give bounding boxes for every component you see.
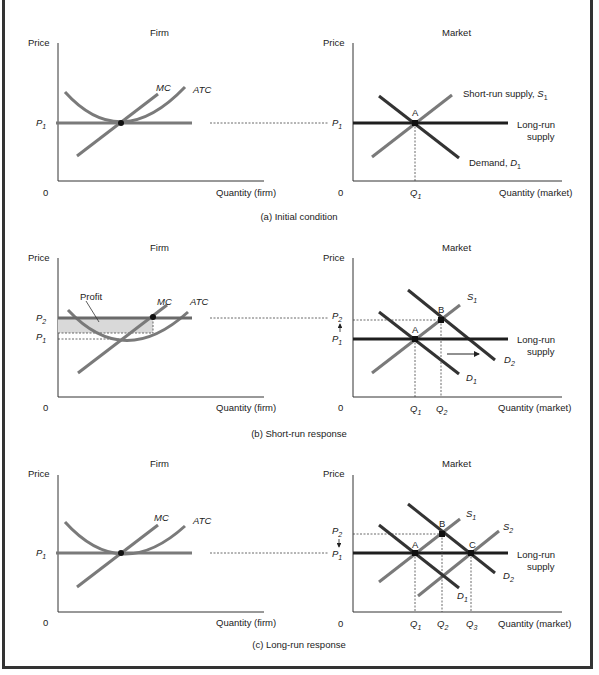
- panel-c-firm-chart: Firm Price 0 Quantity (firm) P1 MC ATC: [28, 458, 276, 628]
- demand-curve-d2: [408, 504, 495, 573]
- price-p1-label: P1: [36, 117, 46, 130]
- long-run-supply-label-1: Long-run: [517, 549, 555, 560]
- origin-label: 0: [338, 402, 343, 413]
- point-b-label: B: [438, 304, 444, 315]
- firm-title: Firm: [150, 458, 169, 469]
- origin-label: 0: [338, 187, 343, 198]
- d1-label: D1: [466, 372, 477, 385]
- price-p1-label: P1: [332, 117, 342, 130]
- panel-c: Firm Price 0 Quantity (firm) P1 MC ATC M…: [28, 458, 571, 650]
- point-b-label: B: [439, 518, 445, 529]
- profit-max-point: [150, 314, 156, 320]
- mc-curve: [77, 525, 158, 587]
- y-axis-label: Price: [28, 468, 50, 479]
- point-c: [468, 550, 474, 556]
- x-axis-label: Quantity (market): [498, 618, 571, 629]
- market-title: Market: [442, 458, 471, 469]
- y-axis-label: Price: [28, 37, 50, 48]
- q1-label: Q1: [410, 187, 421, 200]
- y-axis-label: Price: [323, 37, 345, 48]
- equilibrium-point: [118, 120, 124, 126]
- mc-curve: [77, 94, 158, 156]
- market-title: Market: [442, 27, 471, 38]
- point-c-label: C: [469, 539, 476, 550]
- point-a-label: A: [412, 107, 419, 118]
- point-a: [412, 120, 418, 126]
- economics-diagram: Firm Price 0 Quantity (firm) P1 MC ATC M…: [0, 0, 599, 675]
- q2-label: Q2: [436, 403, 447, 416]
- d2-label: D2: [503, 570, 514, 583]
- origin-label: 0: [43, 617, 48, 628]
- origin-label: 0: [43, 402, 48, 413]
- long-run-supply-label-2: supply: [527, 561, 555, 572]
- panel-b: Firm Price 0 Quantity (firm) P2 P1 Profi…: [28, 242, 571, 439]
- point-b: [439, 531, 445, 537]
- y-axis-label: Price: [323, 468, 345, 479]
- long-run-supply-label-2: supply: [527, 346, 555, 357]
- x-axis-label: Quantity (market): [499, 187, 572, 198]
- point-a: [412, 550, 418, 556]
- mc-label: MC: [156, 82, 171, 93]
- panel-c-market-chart: Market Price 0 Quantity (market) P2 P1 A…: [323, 458, 571, 631]
- panel-b-market-chart: Market Price 0 Quantity (market) P2 P1 A…: [323, 242, 571, 416]
- long-run-supply-label-2: supply: [527, 131, 555, 142]
- price-p1-label: P1: [36, 331, 46, 344]
- origin-label: 0: [43, 187, 48, 198]
- y-axis-label: Price: [323, 252, 345, 263]
- long-run-supply-label-1: Long-run: [517, 119, 555, 130]
- panel-b-caption: (b) Short-run response: [251, 428, 347, 439]
- q1-label: Q1: [410, 403, 421, 416]
- price-p1-label: P1: [332, 333, 342, 346]
- price-p1-label: P1: [332, 548, 342, 561]
- price-p2-label: P2: [332, 310, 342, 323]
- panel-a-firm-chart: Firm Price 0 Quantity (firm) P1 MC ATC: [28, 27, 276, 198]
- d2-label: D2: [504, 354, 515, 367]
- demand-curve-d1: [379, 96, 459, 158]
- s1-label: S1: [466, 508, 476, 521]
- panel-a-caption: (a) Initial condition: [260, 211, 337, 222]
- mc-label: MC: [154, 512, 169, 523]
- atc-label: ATC: [192, 515, 211, 526]
- x-axis-label: Quantity (firm): [216, 617, 276, 628]
- firm-title: Firm: [150, 242, 169, 253]
- panel-a: Firm Price 0 Quantity (firm) P1 MC ATC M…: [28, 27, 572, 222]
- firm-title: Firm: [150, 27, 169, 38]
- panel-b-firm-chart: Firm Price 0 Quantity (firm) P2 P1 Profi…: [28, 242, 276, 413]
- d1-label: D1: [457, 590, 468, 603]
- short-run-supply-label: Short-run supply, S1: [463, 88, 548, 101]
- point-a-label: A: [412, 324, 419, 335]
- mc-label: MC: [157, 296, 172, 307]
- price-p1-label: P1: [36, 547, 46, 560]
- s2-label: S2: [503, 521, 513, 534]
- q2-label: Q2: [437, 618, 448, 631]
- panel-a-market-chart: Market Price 0 Quantity (market) P1 A Q1…: [323, 27, 572, 200]
- profit-label: Profit: [80, 291, 103, 302]
- q3-label: Q3: [466, 618, 477, 631]
- market-title: Market: [442, 242, 471, 253]
- point-b: [438, 317, 444, 323]
- equilibrium-point: [118, 550, 124, 556]
- x-axis-label: Quantity (market): [498, 402, 571, 413]
- long-run-supply-label-1: Long-run: [517, 334, 555, 345]
- price-p2-label: P2: [332, 525, 342, 538]
- atc-label: ATC: [189, 296, 208, 307]
- origin-label: 0: [338, 618, 343, 629]
- x-axis-label: Quantity (firm): [216, 187, 276, 198]
- s1-label: S1: [467, 291, 477, 304]
- point-a: [412, 336, 418, 342]
- y-axis-label: Price: [28, 252, 50, 263]
- atc-label: ATC: [192, 84, 211, 95]
- point-a-label: A: [412, 539, 419, 550]
- demand-curve-d2: [408, 290, 495, 360]
- price-p2-label: P2: [36, 312, 46, 325]
- x-axis-label: Quantity (firm): [216, 402, 276, 413]
- demand-label: Demand, D1: [469, 157, 521, 170]
- panel-c-caption: (c) Long-run response: [252, 639, 345, 650]
- q1-label: Q1: [410, 618, 421, 631]
